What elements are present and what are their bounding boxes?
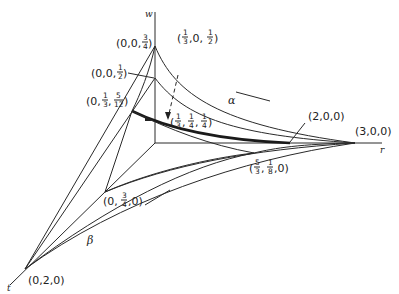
svg-text:,: , xyxy=(108,95,112,108)
svg-text:1: 1 xyxy=(208,28,213,37)
beta-label: β xyxy=(86,234,93,247)
svg-text:(: ( xyxy=(170,116,174,129)
svg-text:,0,: ,0, xyxy=(189,32,203,45)
svg-text:(: ( xyxy=(249,162,253,175)
beta-curve-outer xyxy=(25,143,355,269)
label-0-0-3q: (0,0, 3 4 ) xyxy=(116,33,152,51)
w-axis-label: w xyxy=(145,9,153,19)
svg-text:4: 4 xyxy=(189,121,194,130)
leader-0012 xyxy=(128,73,154,78)
svg-text:(0,0,: (0,0, xyxy=(91,67,116,80)
svg-text:): ) xyxy=(208,116,212,129)
svg-text:(0,: (0, xyxy=(103,195,118,208)
svg-text:,: , xyxy=(182,116,186,129)
edge-0034-to-0-13-512 xyxy=(132,46,155,111)
alpha-label: α xyxy=(228,94,236,107)
label-0-13-512: (0, 1 3 , 5 12 ) xyxy=(86,91,128,109)
label-0-0-h: (0,0, 1 2 ) xyxy=(91,63,127,81)
svg-text:,: , xyxy=(195,116,199,129)
label-0-34-0: (0, 3 4 ,0) xyxy=(103,191,143,209)
svg-text:): ) xyxy=(124,95,128,108)
svg-text:1: 1 xyxy=(268,158,273,167)
svg-text:12: 12 xyxy=(114,100,124,109)
svg-text:3: 3 xyxy=(255,167,260,176)
r-axis-label: r xyxy=(380,145,385,155)
svg-text:3: 3 xyxy=(183,37,188,46)
svg-text:,: , xyxy=(261,162,265,175)
svg-text:4: 4 xyxy=(122,200,127,209)
svg-text:2: 2 xyxy=(208,37,213,46)
svg-text:4: 4 xyxy=(202,121,207,130)
svg-text:3: 3 xyxy=(176,121,181,130)
svg-text:): ) xyxy=(123,67,127,80)
svg-text:1: 1 xyxy=(176,112,181,121)
label-13-14-14: ( 1 3 , 1 4 , 1 4 ) xyxy=(170,112,212,130)
svg-text:1: 1 xyxy=(183,28,188,37)
label-2-0-0: (2,0,0) xyxy=(308,110,345,123)
svg-text:5: 5 xyxy=(116,91,121,100)
simplex-diagram: w r t α β (0,0, 3 4 ) (0,0, 1 2 ) (0, 1 … xyxy=(0,0,399,294)
svg-text:,0): ,0) xyxy=(274,162,289,175)
label-13-0-12: ( 1 3 ,0, 1 2 ) xyxy=(177,28,218,46)
t-axis-label: t xyxy=(7,283,11,293)
svg-text:(: ( xyxy=(177,32,181,45)
svg-text:): ) xyxy=(148,37,152,50)
svg-text:3: 3 xyxy=(122,191,127,200)
label-0-2-0: (0,2,0) xyxy=(28,274,65,287)
edge-0340-to-0-13-512 xyxy=(105,111,132,192)
svg-text:1: 1 xyxy=(202,112,207,121)
svg-text:1: 1 xyxy=(189,112,194,121)
leader-13-14-14 xyxy=(236,92,270,101)
svg-text:(0,: (0, xyxy=(86,95,101,108)
beta-curve-inner xyxy=(105,143,355,192)
edge-0340-to-5-3 xyxy=(105,153,254,192)
svg-text:8: 8 xyxy=(268,167,273,176)
svg-text:): ) xyxy=(214,32,218,45)
svg-text:5: 5 xyxy=(255,158,260,167)
label-53-18-0: ( 5 3 , 1 8 ,0) xyxy=(249,158,289,176)
svg-text:(0,0,: (0,0, xyxy=(116,37,141,50)
label-3-0-0: (3,0,0) xyxy=(355,125,392,138)
svg-text:,0): ,0) xyxy=(128,195,143,208)
leader-0340 xyxy=(145,190,170,205)
